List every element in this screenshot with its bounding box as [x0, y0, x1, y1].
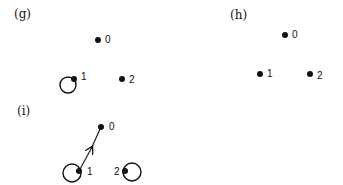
node-g-1	[71, 76, 77, 82]
node-label-i-1: 1	[87, 167, 93, 177]
node-i-2	[122, 168, 128, 174]
node-label-g-2: 2	[129, 75, 135, 85]
diagram-canvas	[0, 0, 343, 185]
node-g-0	[95, 37, 101, 43]
panel-label-h: (h)	[230, 8, 247, 22]
node-i-1	[76, 168, 82, 174]
edge-i-1-0-rest	[91, 127, 101, 149]
node-label-h-0: 0	[292, 30, 298, 40]
panel-h	[257, 32, 313, 77]
node-label-i-0: 0	[109, 122, 115, 132]
node-h-1	[257, 71, 263, 77]
panel-label-g: (g)	[14, 7, 31, 21]
node-h-2	[307, 71, 313, 77]
node-label-g-0: 0	[105, 35, 111, 45]
panel-i	[63, 124, 141, 182]
node-i-0	[98, 124, 104, 130]
node-label-h-1: 1	[267, 69, 273, 79]
node-label-g-1: 1	[81, 72, 87, 82]
node-label-i-2: 2	[114, 167, 120, 177]
node-label-h-2: 2	[317, 71, 323, 81]
node-h-0	[282, 32, 288, 38]
panel-label-i: (i)	[17, 104, 30, 118]
panel-g	[60, 37, 125, 93]
node-g-2	[119, 76, 125, 82]
